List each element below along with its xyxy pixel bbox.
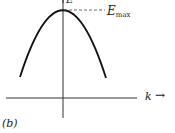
x-axis-label: k — [145, 90, 152, 103]
emax-label: Emax — [107, 4, 131, 19]
right-arrow-icon: → — [155, 88, 165, 102]
band-diagram — [0, 0, 175, 133]
y-axis-label: E — [66, 0, 73, 5]
panel-label: (b) — [2, 117, 18, 130]
